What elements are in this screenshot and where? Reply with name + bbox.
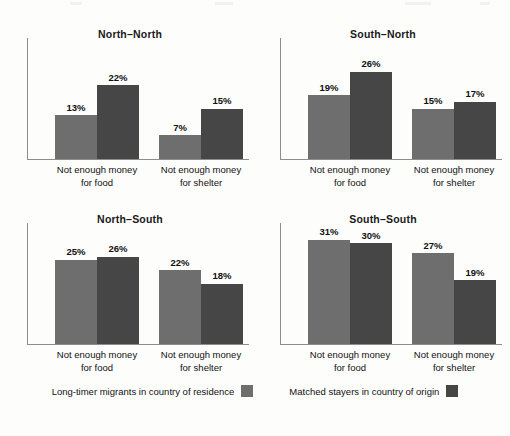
x-tick-label-shelter: Not enough money for shelter	[147, 349, 255, 374]
bar-value-label: 15%	[423, 95, 442, 106]
x-tick-label-line1: Not enough money	[43, 349, 151, 362]
bar-wrap: 22%	[97, 38, 139, 159]
x-tick-label-line1: Not enough money	[147, 349, 255, 362]
x-axis-line	[27, 159, 249, 160]
bar-group-shelter: 22% 18%	[159, 223, 243, 344]
bar-value-label: 17%	[465, 88, 484, 99]
bar-value-label: 19%	[465, 267, 484, 278]
legend-swatch-icon	[241, 385, 253, 397]
panel-north-north: North–North 13% 22%	[5, 18, 255, 198]
x-axis-line	[27, 344, 249, 345]
x-tick-label-food: Not enough money for food	[43, 349, 151, 374]
bar-long-timer-migrants[interactable]	[55, 260, 97, 344]
bar-matched-stayers[interactable]	[201, 109, 243, 159]
bar-matched-stayers[interactable]	[350, 243, 392, 344]
bar-matched-stayers[interactable]	[97, 85, 139, 159]
x-tick-label-shelter: Not enough money for shelter	[400, 349, 508, 374]
bar-value-label: 22%	[170, 257, 189, 268]
bar-group-shelter: 7% 15%	[159, 38, 243, 159]
panel-south-south: South–South 31% 30%	[258, 203, 508, 383]
x-axis-line	[280, 344, 502, 345]
bar-wrap: 22%	[159, 223, 201, 344]
plot-area: 19% 26% 15%	[280, 38, 502, 160]
x-tick-label-line2: for food	[296, 362, 404, 375]
legend-label: Matched stayers in country of origin	[289, 386, 439, 397]
x-tick-label-line2: for food	[43, 362, 151, 375]
bar-wrap: 26%	[350, 38, 392, 159]
bar-long-timer-migrants[interactable]	[308, 95, 350, 159]
bar-group-shelter: 15% 17%	[412, 38, 496, 159]
bar-value-label: 31%	[319, 226, 338, 237]
bar-value-label: 27%	[423, 240, 442, 251]
grouped-bar-chart-figure: North–North 13% 22%	[0, 0, 510, 436]
x-tick-label-line1: Not enough money	[400, 349, 508, 362]
bar-long-timer-migrants[interactable]	[412, 109, 454, 159]
bar-matched-stayers[interactable]	[201, 284, 243, 345]
x-tick-label-line1: Not enough money	[296, 349, 404, 362]
bar-wrap: 30%	[350, 223, 392, 344]
bar-group-food: 19% 26%	[308, 38, 392, 159]
x-tick-label-food: Not enough money for food	[43, 164, 151, 189]
y-axis-line	[280, 38, 281, 160]
panel-grid: North–North 13% 22%	[0, 18, 510, 378]
bar-group-food: 25% 26%	[55, 223, 139, 344]
bar-long-timer-migrants[interactable]	[55, 115, 97, 159]
bar-value-label: 15%	[212, 95, 231, 106]
legend-item-matched-stayers[interactable]: Matched stayers in country of origin	[289, 385, 458, 397]
bar-matched-stayers[interactable]	[454, 102, 496, 159]
bar-wrap: 19%	[308, 38, 350, 159]
chart-legend: Long-timer migrants in country of reside…	[0, 385, 510, 397]
bar-value-label: 13%	[66, 102, 85, 113]
bar-wrap: 13%	[55, 38, 97, 159]
bar-group-shelter: 27% 19%	[412, 223, 496, 344]
x-tick-label-food: Not enough money for food	[296, 349, 404, 374]
bar-value-label: 22%	[108, 72, 127, 83]
bar-group-food: 13% 22%	[55, 38, 139, 159]
bar-wrap: 7%	[159, 38, 201, 159]
bar-value-label: 7%	[173, 122, 187, 133]
bar-matched-stayers[interactable]	[350, 72, 392, 159]
bar-wrap: 15%	[412, 38, 454, 159]
bar-value-label: 26%	[361, 58, 380, 69]
plot-area: 31% 30% 27%	[280, 223, 502, 345]
plot-area: 25% 26% 22%	[27, 223, 249, 345]
legend-label: Long-timer migrants in country of reside…	[52, 386, 235, 397]
bar-wrap: 31%	[308, 223, 350, 344]
bar-value-label: 30%	[361, 230, 380, 241]
x-tick-label-line1: Not enough money	[296, 164, 404, 177]
x-tick-label-line2: for food	[296, 177, 404, 190]
bar-long-timer-migrants[interactable]	[308, 240, 350, 344]
x-tick-label-line2: for shelter	[147, 177, 255, 190]
y-axis-line	[27, 223, 28, 345]
bar-wrap: 17%	[454, 38, 496, 159]
bar-value-label: 18%	[212, 270, 231, 281]
x-tick-label-food: Not enough money for food	[296, 164, 404, 189]
bar-wrap: 18%	[201, 223, 243, 344]
y-axis-line	[280, 223, 281, 345]
y-axis-line	[27, 38, 28, 160]
bar-long-timer-migrants[interactable]	[159, 135, 201, 159]
bar-value-label: 19%	[319, 82, 338, 93]
bar-wrap: 25%	[55, 223, 97, 344]
bar-long-timer-migrants[interactable]	[159, 270, 201, 344]
x-tick-label-line2: for shelter	[400, 362, 508, 375]
x-tick-label-shelter: Not enough money for shelter	[400, 164, 508, 189]
x-tick-label-line2: for food	[43, 177, 151, 190]
x-axis-line	[280, 159, 502, 160]
x-tick-label-line1: Not enough money	[400, 164, 508, 177]
bar-wrap: 19%	[454, 223, 496, 344]
x-tick-label-shelter: Not enough money for shelter	[147, 164, 255, 189]
panel-north-south: North–South 25% 26%	[5, 203, 255, 383]
x-tick-label-line2: for shelter	[400, 177, 508, 190]
bar-wrap: 27%	[412, 223, 454, 344]
bar-wrap: 15%	[201, 38, 243, 159]
bar-matched-stayers[interactable]	[454, 280, 496, 344]
x-tick-label-line2: for shelter	[147, 362, 255, 375]
legend-item-long-timer-migrants[interactable]: Long-timer migrants in country of reside…	[52, 385, 254, 397]
x-tick-label-line1: Not enough money	[43, 164, 151, 177]
bar-matched-stayers[interactable]	[97, 257, 139, 344]
bar-long-timer-migrants[interactable]	[412, 253, 454, 344]
bar-value-label: 26%	[108, 243, 127, 254]
bar-value-label: 25%	[66, 246, 85, 257]
panel-south-north: South–North 19% 26%	[258, 18, 508, 198]
